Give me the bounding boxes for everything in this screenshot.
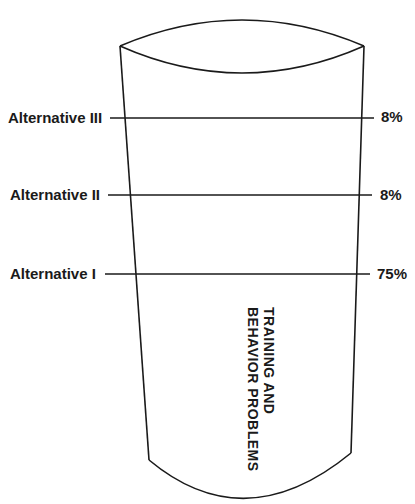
alternative-1-label: Alternative I — [10, 265, 96, 282]
alternative-2-percent: 8% — [380, 186, 402, 203]
alternative-1-percent: 75% — [377, 265, 407, 282]
vessel-right-side — [351, 46, 364, 453]
alternative-2-label: Alternative II — [10, 186, 100, 203]
vessel-top-rim-back — [120, 20, 364, 46]
vessel-left-side — [120, 46, 149, 460]
alternative-3-label: Alternative III — [8, 109, 102, 126]
vessel-label-line-1: TRAINING AND — [261, 307, 277, 472]
vessel-label-line-2: BEHAVIOR PROBLEMS — [245, 307, 261, 472]
vessel-diagram — [0, 0, 415, 504]
vessel-top-rim-front — [120, 46, 364, 73]
vessel-label: TRAINING AND BEHAVIOR PROBLEMS — [245, 307, 277, 472]
alternative-3-percent: 8% — [381, 108, 403, 125]
